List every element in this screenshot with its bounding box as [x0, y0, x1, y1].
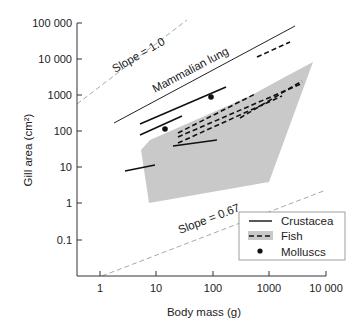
svg-text:100 000: 100 000: [32, 17, 72, 29]
svg-text:1000: 1000: [48, 89, 72, 101]
y-tick-labels: 100 000 10 000 1000 100 10 1 0.1: [32, 17, 72, 246]
svg-text:1: 1: [66, 197, 72, 209]
svg-text:10 000: 10 000: [38, 53, 72, 65]
svg-text:100: 100: [54, 125, 72, 137]
x-ticks: [100, 271, 326, 276]
gill-area-chart: 100 000 10 000 1000 100 10 1 0.1 1 10 10…: [0, 0, 362, 325]
slope-067-annotation: Slope = 0.67: [176, 201, 241, 235]
x-tick-labels: 1 10 100 1000 10 000: [97, 282, 343, 294]
svg-text:1: 1: [97, 282, 103, 294]
legend-molluscs-label: Molluscs: [281, 246, 326, 258]
y-axis-label: Gill area (cm²): [22, 113, 34, 186]
x-axis-label: Body mass (g): [167, 306, 241, 318]
mammalian-lung-annotation: Mammalian lung: [150, 45, 230, 95]
svg-text:10 000: 10 000: [309, 282, 343, 294]
mollusc-point-1: [162, 126, 168, 132]
svg-text:1000: 1000: [257, 282, 281, 294]
svg-text:100: 100: [204, 282, 222, 294]
svg-text:10: 10: [60, 161, 72, 173]
legend: Crustacea Fish Molluscs: [239, 212, 345, 260]
svg-text:0.1: 0.1: [57, 234, 72, 246]
y-ticks: [77, 23, 82, 240]
legend-fish-label: Fish: [281, 230, 303, 242]
svg-text:10: 10: [150, 282, 162, 294]
mollusc-point-2: [208, 94, 214, 100]
slope-1-annotation: Slope = 1.0: [110, 35, 167, 75]
legend-crustacea-label: Crustacea: [281, 215, 334, 227]
legend-molluscs-swatch: [257, 248, 262, 253]
